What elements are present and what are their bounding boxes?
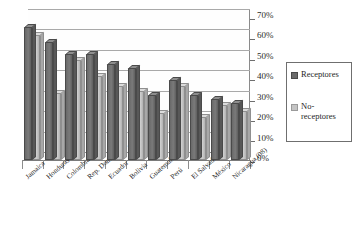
- bar-face: [128, 68, 136, 160]
- y-axis-tick-label: 40%: [257, 72, 274, 81]
- bar-side: [136, 65, 140, 160]
- bar-side: [61, 89, 65, 160]
- y-axis-tick-label: 70%: [257, 11, 274, 20]
- bar-side: [115, 61, 119, 160]
- bar-side: [247, 108, 251, 160]
- bar[interactable]: [169, 80, 177, 160]
- bar-side: [32, 24, 36, 160]
- bar[interactable]: [65, 54, 73, 160]
- legend-label: No-receptores: [301, 101, 347, 121]
- bar-face: [24, 27, 32, 160]
- bar-face: [211, 99, 219, 160]
- bar-face: [190, 95, 198, 160]
- bar-group: [147, 17, 168, 160]
- bar-face: [107, 64, 115, 160]
- bar-side: [239, 100, 243, 160]
- bar[interactable]: [128, 68, 136, 160]
- y-axis-tick-label: 10%: [257, 134, 274, 143]
- bar-side: [219, 96, 223, 160]
- bar-side: [94, 51, 98, 160]
- bar[interactable]: [24, 27, 32, 160]
- bar-side: [198, 92, 202, 160]
- bar-face: [45, 42, 53, 160]
- tick-mark-icon: [250, 39, 255, 40]
- y-axis-tick-label: 30%: [257, 93, 274, 102]
- plot-area: [22, 17, 250, 169]
- tick-mark-icon: [250, 101, 255, 102]
- y-axis-tick-label: 50%: [257, 52, 274, 61]
- legend-swatch-icon: [291, 104, 298, 111]
- y-axis-tick-label: 60%: [257, 31, 274, 40]
- chart-legend: Receptores No-receptores: [286, 62, 352, 142]
- bar-group: [210, 17, 231, 160]
- x-axis-labels: JamaicaHonduras (08)ColombiaRep. Dominic…: [0, 173, 357, 239]
- bar-side: [123, 83, 127, 160]
- bar-group: [85, 17, 106, 160]
- bar-group: [64, 17, 85, 160]
- legend-item-no-receptores[interactable]: No-receptores: [291, 101, 347, 121]
- legend-swatch-icon: [291, 72, 298, 79]
- bar-side: [185, 83, 189, 160]
- bar[interactable]: [231, 103, 239, 160]
- tick-mark-icon: [250, 19, 255, 20]
- bar-chart: 0%10%20%30%40%50%60%70% JamaicaHonduras …: [0, 0, 357, 239]
- x-axis-tick: [22, 160, 23, 169]
- bar-group: [23, 17, 44, 160]
- tick-mark-icon: [250, 60, 255, 61]
- legend-label: Receptores: [301, 69, 339, 79]
- bar-group: [44, 17, 65, 160]
- bar[interactable]: [190, 95, 198, 160]
- bar-group: [168, 17, 189, 160]
- bars-layer: [22, 17, 250, 160]
- legend-item-receptores[interactable]: Receptores: [291, 69, 347, 79]
- y-axis: 0%10%20%30%40%50%60%70%: [250, 9, 290, 174]
- y-axis-tick-label: 20%: [257, 113, 274, 122]
- bar-group: [127, 17, 148, 160]
- bar-side: [102, 73, 106, 160]
- gridline: [28, 9, 250, 10]
- bar-side: [227, 102, 231, 160]
- bar-group: [230, 17, 251, 160]
- bar-face: [86, 54, 94, 160]
- bar[interactable]: [148, 95, 156, 160]
- bar-side: [40, 32, 44, 160]
- bar[interactable]: [45, 42, 53, 160]
- bar-side: [53, 38, 57, 160]
- bar[interactable]: [107, 64, 115, 160]
- bar-side: [73, 51, 77, 160]
- tick-mark-icon: [250, 80, 255, 81]
- bar-side: [81, 57, 85, 160]
- bar-side: [156, 92, 160, 160]
- bar-side: [206, 114, 210, 160]
- bar[interactable]: [211, 99, 219, 160]
- bar-side: [164, 110, 168, 160]
- x-axis-tick: [188, 160, 189, 169]
- bar-group: [189, 17, 210, 160]
- bar[interactable]: [86, 54, 94, 160]
- bar-face: [169, 80, 177, 160]
- bar-group: [106, 17, 127, 160]
- bar-side: [177, 77, 181, 160]
- bar-side: [144, 87, 148, 160]
